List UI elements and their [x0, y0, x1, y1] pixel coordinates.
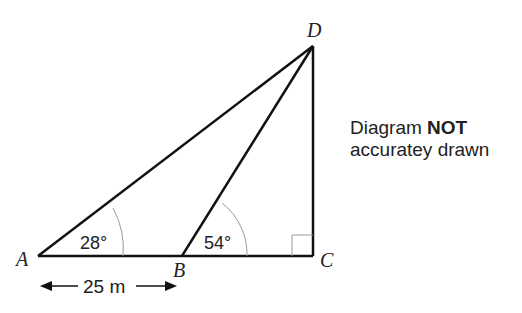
right-angle-marker [292, 235, 313, 256]
segment-AD [38, 46, 313, 256]
angle-label-B: 54° [204, 233, 231, 253]
note-line1-prefix: Diagram [350, 117, 427, 138]
segment-BD [182, 46, 313, 256]
label-A: A [14, 248, 29, 270]
angle-arc-A [113, 208, 123, 256]
label-D: D [306, 19, 322, 41]
diagram-note: Diagram NOT accuratey drawn [350, 117, 489, 161]
arrowhead-left-icon [40, 281, 52, 291]
note-line1-bold: NOT [427, 117, 467, 138]
angle-label-A: 28° [80, 233, 107, 253]
arrowhead-right-icon [165, 281, 177, 291]
label-B: B [173, 259, 185, 281]
label-C: C [320, 249, 334, 271]
measure-label-AB: 25 m [83, 276, 125, 297]
note-line2: accuratey drawn [350, 139, 489, 161]
